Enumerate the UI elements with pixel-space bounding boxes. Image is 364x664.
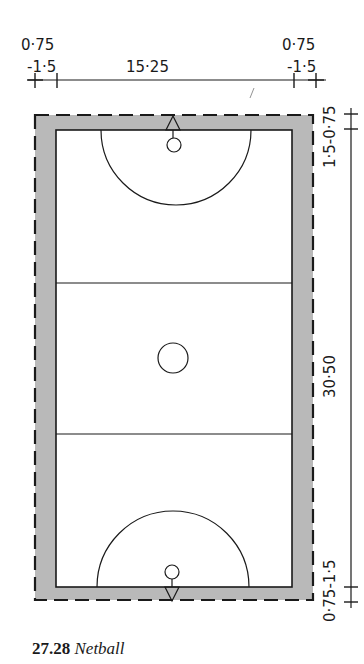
dim-court-width: 15·25 bbox=[126, 58, 169, 76]
netball-court-diagram: 0·75 -1·5 15·25 0·75 -1·5 1·5-0·75 30·50… bbox=[0, 0, 364, 664]
width-dimension: 0·75 -1·5 15·25 0·75 -1·5 bbox=[21, 36, 326, 98]
court-boundary bbox=[56, 130, 292, 587]
figure-title: Netball bbox=[75, 639, 125, 658]
dim-top-right-outer: 0·75 bbox=[282, 36, 315, 54]
dim-top-right-inner: -1·5 bbox=[287, 58, 316, 76]
dim-top-left-outer: 0·75 bbox=[21, 36, 54, 54]
length-dimension: 1·5-0·75 30·50 0·75-1·5 bbox=[321, 105, 358, 622]
dim-court-length: 30·50 bbox=[321, 355, 339, 398]
figure-number: 27.28 bbox=[32, 639, 70, 658]
dim-top-left-inner: -1·5 bbox=[27, 58, 56, 76]
figure-caption: 27.28 Netball bbox=[32, 639, 125, 659]
dim-end-margin-top: 1·5-0·75 bbox=[321, 105, 339, 168]
dim-end-margin-bottom: 0·75-1·5 bbox=[321, 559, 339, 622]
